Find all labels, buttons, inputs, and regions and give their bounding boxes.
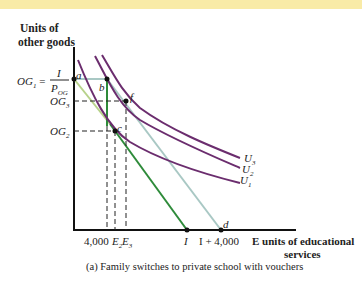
x-tick-i: I xyxy=(184,235,188,247)
point-f-label: f xyxy=(130,91,133,103)
x-tick-i-plus-4000: I + 4,000 xyxy=(199,235,239,247)
point-i xyxy=(185,228,190,233)
point-b-label: b xyxy=(99,81,105,93)
og3-label: OG3 xyxy=(50,95,69,112)
point-b xyxy=(105,77,110,82)
u1-label: U1 xyxy=(240,174,251,191)
x-tick-e3: E3 xyxy=(122,235,132,252)
point-a-label: a xyxy=(76,69,82,81)
original-budget-line xyxy=(110,124,187,230)
x-axis-title-line2: services xyxy=(284,248,321,260)
point-f xyxy=(124,99,129,104)
figure-caption: (a) Family switches to private school wi… xyxy=(86,261,303,273)
y-axis-title-line2: other goods xyxy=(18,36,75,48)
og1-numerator: I xyxy=(57,67,61,79)
og2-label: OG2 xyxy=(50,125,69,142)
point-d-label: d xyxy=(223,218,229,230)
indifference-curve-u2 xyxy=(95,56,240,168)
x-tick-e2: E2 xyxy=(112,235,122,252)
y-axis-title-line1: Units of xyxy=(20,22,59,34)
x-axis-title-line1: E units of educational xyxy=(252,235,354,247)
point-c-label: c xyxy=(117,122,122,134)
og1-label: OG1 = xyxy=(17,75,45,92)
x-tick-4000: 4,000 xyxy=(84,235,109,247)
